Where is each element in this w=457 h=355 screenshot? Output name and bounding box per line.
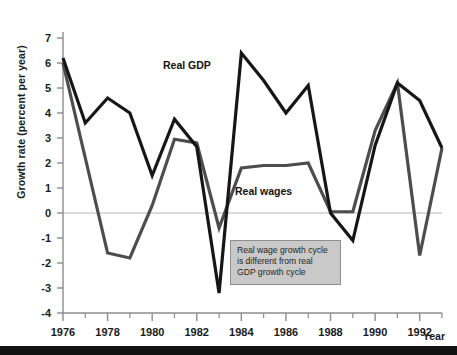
callout-line-2: is different from real [237,256,335,267]
callout-line-3: GDP growth cycle [237,267,335,278]
x-tick-label: 1976 [40,327,86,338]
y-tick-label: -4 [27,308,51,319]
y-tick-label: 4 [27,108,51,119]
y-tick-label: 0 [27,208,51,219]
series-line-real-wages [63,63,442,258]
y-tick-label: 1 [27,183,51,194]
y-tick-label: -1 [27,233,51,244]
y-tick-marks [57,38,63,313]
real-wages-label: Real wages [235,185,292,197]
x-tick-label: 1984 [218,327,264,338]
callout-annotation: Real wage growth cycle is different from… [230,240,341,285]
y-tick-label: 3 [27,133,51,144]
x-tick-label: 1988 [308,327,354,338]
x-tick-marks [63,313,442,321]
y-tick-label: -2 [27,258,51,269]
callout-line-1: Real wage growth cycle [237,245,335,256]
footer-rule [0,346,457,355]
chart-svg-canvas [0,0,457,355]
y-tick-label: -3 [27,283,51,294]
y-tick-label: 5 [27,83,51,94]
x-tick-label: 1990 [352,327,398,338]
y-tick-label: 6 [27,58,51,69]
y-tick-label: 2 [27,158,51,169]
chart-root: Growth rate (percent per year) 76543210-… [0,0,457,355]
x-axis-title: Year [423,330,445,342]
x-tick-label: 1986 [263,327,309,338]
x-tick-label: 1980 [129,327,175,338]
x-tick-label: 1982 [174,327,220,338]
y-tick-label: 7 [27,33,51,44]
real-gdp-label: Real GDP [163,59,211,71]
x-tick-label: 1978 [85,327,131,338]
plot-area [0,0,457,355]
